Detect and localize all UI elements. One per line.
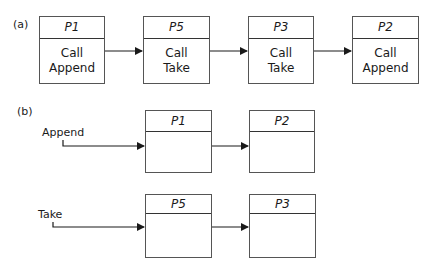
arrow-append-p1	[63, 140, 144, 146]
arrow-take-p5	[53, 222, 144, 227]
connector-arrows	[0, 0, 432, 272]
